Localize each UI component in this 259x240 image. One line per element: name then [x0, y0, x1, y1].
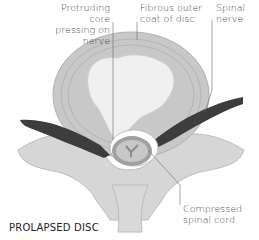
label-protruding-core: Protruding core pressing on nerve — [50, 2, 110, 46]
label-spinal-nerve: Spinal nerve — [216, 2, 245, 24]
label-fibrous-coat: Fibrous outer coat of disc — [140, 2, 202, 24]
figure-title: PROLAPSED DISC — [9, 222, 99, 233]
label-compressed-cord: Compressed spinal cord — [183, 203, 242, 225]
